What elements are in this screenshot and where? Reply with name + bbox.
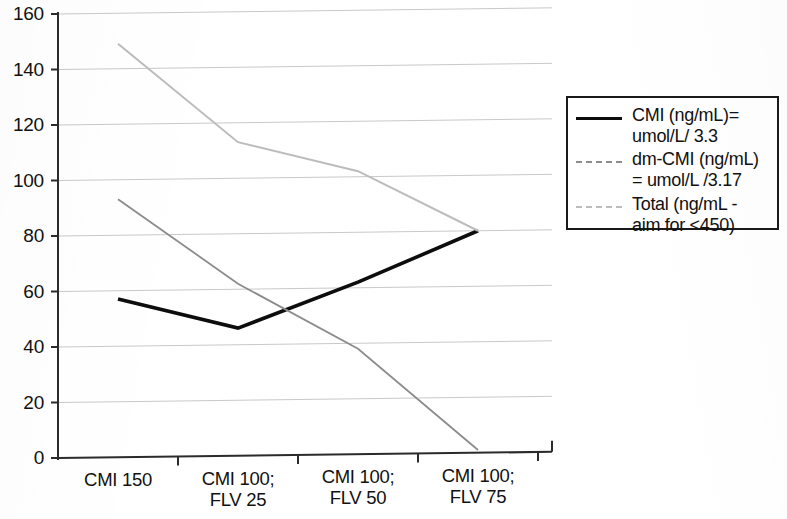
gridline bbox=[58, 63, 552, 69]
legend-label-line1: Total (ng/mL - bbox=[632, 194, 737, 214]
legend-label-line1: dm-CMI (ng/mL) bbox=[632, 149, 759, 169]
chart-screenshot: 160140120100806040200 CMI 150CMI 100;FLV… bbox=[0, 0, 787, 519]
x-label-line1: CMI 100; bbox=[202, 468, 275, 489]
y-axis-tick-label: 0 bbox=[2, 448, 44, 467]
y-axis-tick-label: 40 bbox=[2, 337, 44, 356]
dashed-light-gray-line-swatch bbox=[574, 200, 624, 216]
legend-label-line2: aim for <450) bbox=[632, 215, 737, 236]
gridline bbox=[58, 119, 552, 125]
line-chart: 160140120100806040200 CMI 150CMI 100;FLV… bbox=[0, 0, 560, 519]
y-axis-tick-label: 20 bbox=[2, 393, 44, 412]
y-axis-tick-label: 160 bbox=[2, 4, 44, 23]
gridline bbox=[58, 285, 552, 291]
y-axis-tick-label: 120 bbox=[2, 115, 44, 134]
legend-item-3[interactable]: Total (ng/mL -aim for <450) bbox=[574, 194, 777, 236]
series-line-1 bbox=[118, 231, 478, 328]
x-axis-category-label: CMI 100;FLV 50 bbox=[294, 466, 422, 508]
solid-black-line-swatch bbox=[574, 111, 624, 127]
series-line-3 bbox=[118, 44, 478, 231]
legend-item-1[interactable]: CMI (ng/mL)=umol/L/ 3.3 bbox=[574, 105, 777, 147]
x-label-line2: FLV 75 bbox=[414, 486, 542, 507]
x-label-line1: CMI 150 bbox=[84, 469, 152, 490]
series-line-2 bbox=[118, 199, 478, 450]
x-axis-category-label: CMI 100;FLV 25 bbox=[174, 468, 302, 510]
legend-item-2[interactable]: dm-CMI (ng/mL)= umol/L /3.17 bbox=[574, 149, 777, 191]
gridline bbox=[58, 174, 552, 180]
y-axis-tick-label: 60 bbox=[2, 282, 44, 301]
x-label-line1: CMI 100; bbox=[442, 465, 515, 486]
chart-legend: CMI (ng/mL)=umol/L/ 3.3dm-CMI (ng/mL)= u… bbox=[566, 96, 779, 230]
legend-label-2: dm-CMI (ng/mL)= umol/L /3.17 bbox=[632, 149, 759, 191]
x-label-line1: CMI 100; bbox=[322, 466, 395, 487]
y-axis-tick-label: 140 bbox=[2, 60, 44, 79]
x-label-line2: FLV 50 bbox=[294, 487, 422, 508]
data-series-group bbox=[118, 44, 478, 450]
x-axis-category-label: CMI 100;FLV 75 bbox=[414, 465, 542, 507]
legend-label-line2: umol/L/ 3.3 bbox=[632, 126, 739, 147]
gridline bbox=[58, 396, 552, 402]
legend-label-1: CMI (ng/mL)=umol/L/ 3.3 bbox=[632, 105, 739, 147]
gridline bbox=[58, 341, 552, 347]
legend-label-line1: CMI (ng/mL)= bbox=[632, 105, 739, 125]
x-axis-line bbox=[58, 452, 552, 458]
gridline bbox=[58, 8, 552, 14]
legend-label-line2: = umol/L /3.17 bbox=[632, 170, 759, 191]
plot-canvas bbox=[0, 0, 560, 519]
y-axis-tick-label: 80 bbox=[2, 226, 44, 245]
legend-label-3: Total (ng/mL -aim for <450) bbox=[632, 194, 737, 236]
gridlines-group bbox=[58, 8, 552, 403]
y-axis-tick-label: 100 bbox=[2, 171, 44, 190]
x-axis-category-label: CMI 150 bbox=[54, 469, 182, 490]
dashed-gray-line-swatch bbox=[574, 155, 624, 171]
x-label-line2: FLV 25 bbox=[174, 489, 302, 510]
